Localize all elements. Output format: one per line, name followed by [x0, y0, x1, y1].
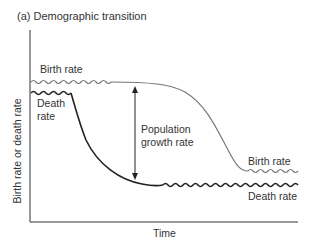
death-rate-label-end: Death rate: [248, 190, 297, 202]
birth-rate-label-start: Birth rate: [40, 63, 83, 75]
growth-rate-label-line2: growth rate: [141, 136, 194, 148]
birth-rate-label-end: Birth rate: [248, 155, 291, 167]
y-axis-label: Birth rate or death rate: [11, 76, 23, 226]
growth-rate-arrow: [132, 86, 138, 180]
death-rate-label-start-line1: Death: [37, 97, 65, 109]
growth-rate-label-line1: Population: [141, 123, 191, 135]
x-axis-label: Time: [153, 227, 176, 239]
death-rate-label-start-line2: rate: [37, 110, 55, 122]
